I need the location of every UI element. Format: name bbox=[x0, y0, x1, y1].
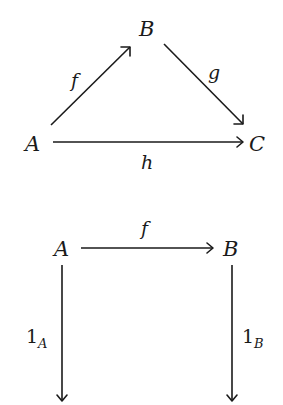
morphism-label-f: f bbox=[69, 69, 81, 91]
morphism-label-h: h bbox=[141, 151, 153, 173]
morphism-label-1B: 1B bbox=[242, 325, 264, 351]
object-A: A bbox=[52, 237, 69, 261]
diagram-canvas: B A C f g h A B f bbox=[0, 0, 283, 405]
arrow-identity-A bbox=[57, 265, 67, 401]
arrow-f bbox=[51, 47, 130, 125]
identity-square: A B f 1A 1B bbox=[26, 217, 264, 401]
morphism-label-g: g bbox=[208, 61, 220, 83]
commutative-triangle: B A C f g h bbox=[23, 17, 265, 173]
morphism-label-1A: 1A bbox=[26, 325, 47, 351]
object-C: C bbox=[249, 132, 265, 156]
object-A: A bbox=[23, 132, 40, 156]
arrow-h bbox=[53, 137, 243, 147]
arrow-f bbox=[81, 243, 213, 253]
arrow-g bbox=[164, 44, 243, 124]
morphism-label-f: f bbox=[139, 217, 151, 239]
object-B: B bbox=[138, 17, 154, 41]
arrow-identity-B bbox=[227, 265, 237, 401]
object-B: B bbox=[222, 237, 238, 261]
